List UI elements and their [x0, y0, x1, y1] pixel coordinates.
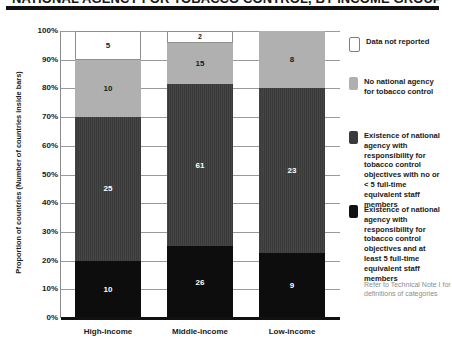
segment-middle-income-no-agency[interactable]: 15 — [167, 43, 233, 84]
x-tick-low-income: Low-income — [237, 327, 347, 336]
legend-item-agency-5-plus-fte[interactable]: Existence of national agency with respon… — [349, 205, 444, 283]
y-tick-50: 50% — [24, 171, 58, 179]
legend-technical-note: Refer to Technical Note I for definition… — [364, 280, 452, 298]
y-tick-100: 100% — [24, 27, 58, 35]
segment-low-income-agency-under-5-fte[interactable]: 23 — [259, 88, 325, 253]
segment-high-income-agency-5-plus-fte[interactable]: 10 — [75, 261, 141, 318]
legend-label-no-agency: No national agency for tobacco control — [364, 77, 444, 97]
bar-middle-income[interactable]: 2 15 61 26 — [167, 31, 233, 318]
bar-high-income[interactable]: 5 10 25 10 — [75, 31, 141, 318]
legend-swatch-no-agency-icon — [349, 77, 358, 90]
legend-swatch-agency-5-plus-fte-icon — [349, 205, 358, 218]
segment-high-income-agency-under-5-fte[interactable]: 25 — [75, 117, 141, 261]
y-tick-30: 30% — [24, 228, 58, 236]
x-axis-line — [61, 317, 340, 320]
y-tick-60: 60% — [24, 142, 58, 150]
segment-low-income-agency-5-plus-fte[interactable]: 9 — [259, 253, 325, 318]
y-tick-70: 70% — [24, 113, 58, 121]
segment-middle-income-agency-under-5-fte[interactable]: 61 — [167, 84, 233, 246]
legend-swatch-data-not-reported-icon — [349, 37, 360, 52]
segment-high-income-no-agency[interactable]: 10 — [75, 60, 141, 117]
legend-item-agency-under-5-fte[interactable]: Existence of national agency with respon… — [349, 131, 444, 209]
y-tick-10: 10% — [24, 285, 58, 293]
y-tick-90: 90% — [24, 56, 58, 64]
segment-middle-income-agency-5-plus-fte[interactable]: 26 — [167, 246, 233, 318]
y-axis-tick-labels: 100% 90% 80% 70% 60% 50% 40% 30% 20% 10%… — [20, 0, 58, 364]
bar-low-income[interactable]: 8 23 9 — [259, 31, 325, 318]
legend-item-no-agency[interactable]: No national agency for tobacco control — [349, 77, 444, 97]
title-divider-rule — [6, 6, 439, 10]
plot-area: 5 10 25 10 2 15 61 26 8 23 9 — [61, 31, 340, 318]
segment-high-income-data-not-reported[interactable]: 5 — [75, 31, 141, 60]
legend-label-data-not-reported: Data not reported — [366, 37, 446, 47]
legend-label-agency-5-plus-fte: Existence of national agency with respon… — [364, 205, 444, 283]
legend-label-agency-under-5-fte: Existence of national agency with respon… — [364, 131, 444, 209]
segment-middle-income-data-not-reported[interactable]: 2 — [167, 31, 233, 43]
y-tick-80: 80% — [24, 84, 58, 92]
y-tick-40: 40% — [24, 199, 58, 207]
y-tick-0: 0% — [24, 314, 58, 322]
segment-low-income-no-agency[interactable]: 8 — [259, 31, 325, 88]
legend-item-data-not-reported[interactable]: Data not reported — [349, 37, 446, 52]
y-tick-20: 20% — [24, 257, 58, 265]
legend-swatch-agency-under-5-fte-icon — [349, 131, 358, 144]
